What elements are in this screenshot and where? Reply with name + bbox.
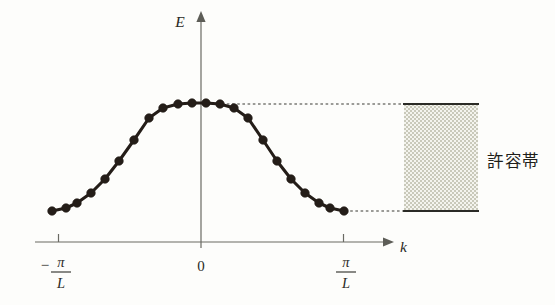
data-point <box>62 204 71 213</box>
data-point <box>159 104 168 113</box>
data-point <box>230 104 239 113</box>
energy-band-path <box>52 103 344 211</box>
data-point <box>87 189 96 198</box>
data-point <box>301 189 310 198</box>
x-tick-label-left: − π L <box>41 254 71 291</box>
data-point <box>101 175 110 184</box>
fraction-numerator: π <box>57 254 65 270</box>
fraction-denominator: L <box>341 275 350 291</box>
data-point <box>326 204 335 213</box>
data-point <box>202 99 211 108</box>
data-points-group <box>48 99 349 216</box>
y-axis-arrowhead <box>196 11 205 22</box>
data-point <box>174 100 183 109</box>
data-point <box>48 207 57 216</box>
x-tick-label-right: π L <box>336 254 356 291</box>
data-point <box>73 199 82 208</box>
band-diagram-svg: E k 0 − π L π L <box>0 0 555 305</box>
data-point <box>315 199 324 208</box>
origin-tick-label: 0 <box>197 258 205 274</box>
data-point <box>188 99 197 108</box>
minus-sign: − <box>41 257 49 273</box>
x-axis-label: k <box>400 238 408 255</box>
energy-band-curve <box>48 99 349 216</box>
allowed-band-region <box>403 104 479 211</box>
data-point <box>244 114 253 123</box>
allowed-band-fill <box>404 104 478 211</box>
data-point <box>259 136 268 145</box>
data-point <box>130 136 139 145</box>
allowed-band-label: 許容帯 <box>487 148 540 172</box>
data-point <box>287 175 296 184</box>
fraction-numerator: π <box>342 254 350 270</box>
data-point <box>115 157 124 166</box>
data-point <box>145 114 154 123</box>
band-diagram-figure: E k 0 − π L π L 許容帯 <box>0 0 555 305</box>
data-point <box>273 157 282 166</box>
fraction-denominator: L <box>56 275 65 291</box>
y-axis-label: E <box>174 13 185 30</box>
data-point <box>340 207 349 216</box>
data-point <box>216 100 225 109</box>
x-axis-arrowhead <box>383 237 394 246</box>
